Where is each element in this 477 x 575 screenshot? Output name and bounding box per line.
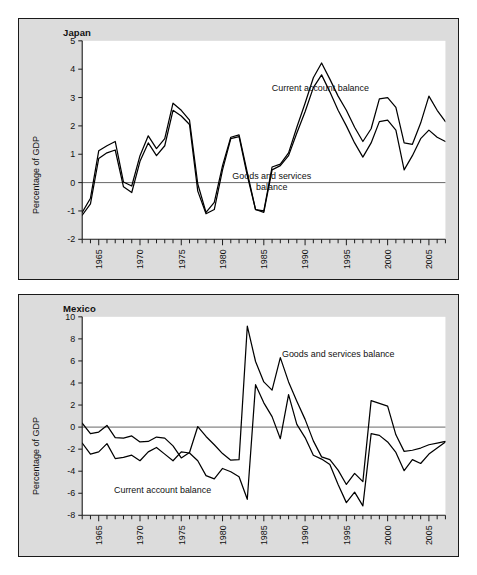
y-tick-label: -1	[67, 206, 75, 216]
x-tick-label: 1970	[135, 249, 145, 269]
y-tick-label: -2	[67, 444, 75, 454]
y-tick-label: 8	[70, 334, 75, 344]
y-tick-label: 1	[70, 149, 75, 159]
figure-root: Japan Percentage of GDP -2-1012345196519…	[0, 0, 477, 575]
x-tick-label: 1980	[218, 249, 228, 269]
annotation-current-account-balance: Current account balance	[114, 485, 211, 495]
x-tick-label: 1980	[218, 525, 228, 545]
x-tick-label: 1965	[94, 249, 104, 269]
y-tick-label: -2	[67, 234, 75, 244]
y-tick-label: -8	[67, 510, 75, 520]
y-tick-label: 5	[70, 36, 75, 46]
x-tick-label: 1965	[94, 525, 104, 545]
y-tick-label: 0	[70, 422, 75, 432]
x-tick-label: 1985	[259, 249, 269, 269]
x-tick-label: 2005	[424, 249, 434, 269]
x-tick-label: 2000	[383, 249, 393, 269]
chart-panel-mexico: Mexico Percentage of GDP -8-6-4-20246810…	[18, 294, 459, 557]
y-tick-label: 3	[70, 93, 75, 103]
y-tick-label: 2	[70, 400, 75, 410]
x-tick-label: 1970	[135, 525, 145, 545]
x-tick-label: 1995	[342, 249, 352, 269]
y-tick-label: 2	[70, 121, 75, 131]
plot-area-mexico: -8-6-4-202468101965197019751980198519901…	[19, 295, 460, 556]
y-tick-label: 4	[70, 378, 75, 388]
annotation-goods-services-balance: Goods and services balance	[282, 349, 395, 359]
chart-panel-japan: Japan Percentage of GDP -2-1012345196519…	[18, 18, 459, 280]
plot-area-japan: -2-1012345196519701975198019851990199520…	[19, 19, 460, 279]
x-tick-label: 1995	[342, 525, 352, 545]
x-tick-label: 1975	[177, 249, 187, 269]
y-tick-label: -6	[67, 488, 75, 498]
x-tick-label: 1975	[177, 525, 187, 545]
annotation-current-account-balance: Current account balance	[272, 83, 369, 93]
y-tick-label: 6	[70, 356, 75, 366]
y-tick-label: -4	[67, 466, 75, 476]
x-tick-label: 2000	[383, 525, 393, 545]
x-tick-label: 1985	[259, 525, 269, 545]
x-tick-label: 2005	[424, 525, 434, 545]
x-tick-label: 1990	[300, 525, 310, 545]
y-tick-label: 4	[70, 64, 75, 74]
annotation-goods-services-balance-line2: balance	[256, 182, 287, 192]
x-tick-label: 1990	[300, 249, 310, 269]
y-tick-label: 10	[65, 312, 75, 322]
annotation-goods-services-balance-line1: Goods and services	[232, 171, 311, 181]
y-tick-label: 0	[70, 178, 75, 188]
